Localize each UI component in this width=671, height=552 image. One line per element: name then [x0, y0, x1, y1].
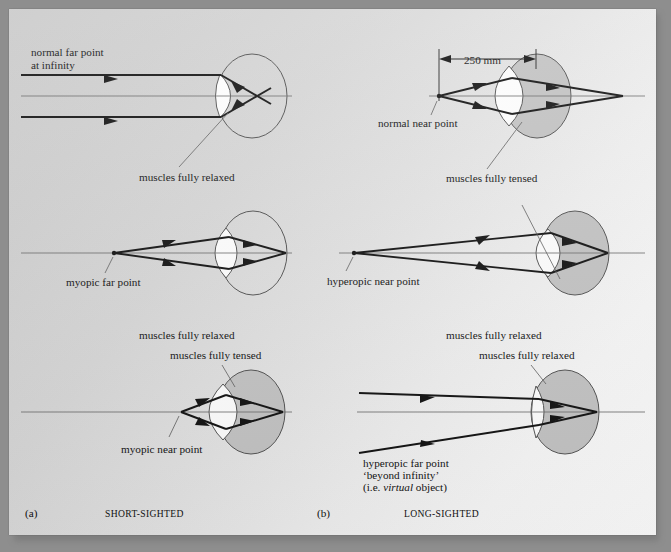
label-b3-line3-suffix: object) — [413, 481, 447, 494]
optics-diagram: normal far point at infinity muscles ful… — [9, 9, 656, 535]
arrowhead-dim-left-b1 — [439, 55, 451, 63]
leader-a2-farpoint — [105, 257, 113, 273]
ray-b3-top — [359, 393, 539, 399]
arrowhead-a1-top-ref — [231, 81, 245, 93]
label-b3-source-line2: ‘beyond infinity’ — [363, 469, 439, 481]
label-b1-dimension: 250 mm — [464, 54, 501, 66]
label-a3-muscles: muscles fully tensed — [170, 349, 262, 361]
label-b3-line3-prefix: (i.e. — [363, 481, 383, 494]
leader-a1-muscles — [179, 113, 228, 167]
label-b2-muscles: muscles fully relaxed — [446, 329, 542, 341]
figure-stage: normal far point at infinity muscles ful… — [0, 0, 671, 552]
panel-label-b: (b) — [317, 507, 330, 520]
leader-a3-nearpoint — [169, 416, 179, 437]
arrowhead-a1-bottom — [104, 117, 118, 125]
diagram-a1: normal far point at infinity muscles ful… — [21, 46, 292, 183]
point-a2-far — [112, 251, 116, 255]
leader-b3-muscles — [531, 365, 546, 384]
label-b1-source: normal near point — [378, 117, 458, 129]
leader-b1-nearpoint — [431, 101, 437, 115]
ray-a2-top-refracted — [229, 237, 286, 253]
arrowhead-a1-bottom-ref — [231, 99, 245, 111]
diagram-b2: hyperopic near point — [327, 205, 645, 295]
panel-label-a: (a) — [25, 507, 38, 520]
ray-b2-bottom — [354, 253, 551, 273]
diagram-b1: 250 mm normal near point muscles fully t… — [378, 49, 645, 184]
leader-b2-nearpoint — [346, 257, 353, 271]
scanned-page: normal far point at infinity muscles ful… — [9, 9, 656, 535]
label-b3-source-line1: hyperopic far point — [363, 457, 450, 469]
ray-a2-bottom-refracted — [229, 253, 286, 269]
label-b3-line3-italic: virtual — [383, 481, 413, 493]
arrowhead-a1-top — [104, 75, 118, 83]
leader-b1-muscles — [487, 122, 522, 169]
panel-caption-a: SHORT-SIGHTED — [105, 508, 184, 519]
panel-caption-b: LONG-SIGHTED — [404, 508, 479, 519]
ray-b3-bottom — [359, 425, 539, 453]
diagram-b3: muscles fully relaxed hyperopic far poin… — [357, 349, 645, 494]
label-a1-source-line1: normal far point — [31, 46, 105, 58]
arrowhead-b1-bottom — [472, 101, 487, 109]
label-a2-source: myopic far point — [66, 276, 141, 288]
label-a1-muscles: muscles fully relaxed — [139, 171, 235, 183]
ray-a2-top — [114, 237, 229, 253]
label-b2-source: hyperopic near point — [327, 275, 420, 287]
point-b2-near — [352, 251, 356, 255]
ray-b2-top — [354, 233, 551, 253]
label-a3-source: myopic near point — [121, 443, 203, 455]
arrowhead-b1-top — [472, 83, 487, 91]
ray-a2-bottom — [114, 253, 229, 269]
label-b3-source-line3: (i.e. virtual object) — [363, 481, 447, 494]
label-b3-muscles: muscles fully relaxed — [479, 349, 575, 361]
diagram-a3: myopic near point muscles fully tensed — [21, 349, 292, 455]
diagram-a2: myopic far point — [21, 211, 292, 295]
label-a2-muscles: muscles fully relaxed — [139, 329, 235, 341]
label-a1-source-line2: at infinity — [31, 59, 75, 71]
